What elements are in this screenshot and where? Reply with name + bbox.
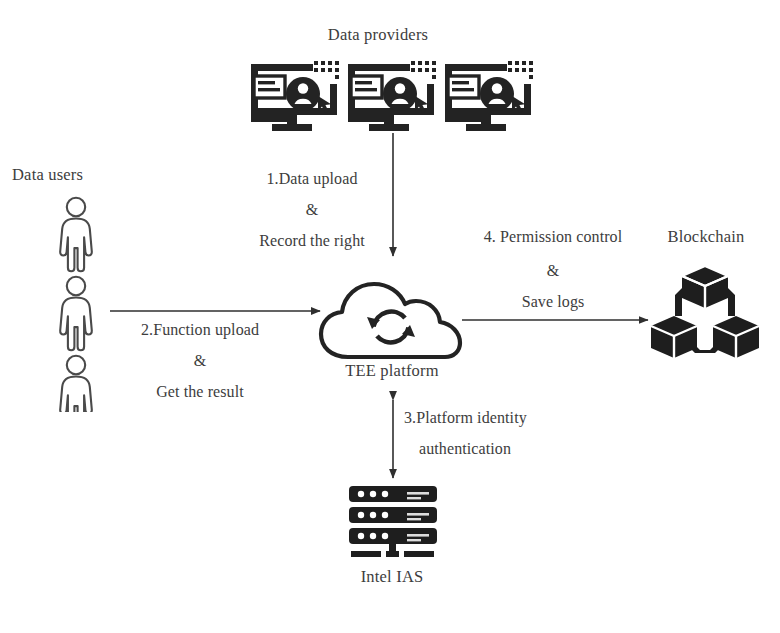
flow-1-conjunction: & xyxy=(306,201,318,219)
flow-2-conjunction: & xyxy=(194,352,206,370)
flow-2-line2: Get the result xyxy=(156,383,244,401)
flow-4-line1: 4. Permission control xyxy=(484,228,623,246)
data-users-label: Data users xyxy=(12,166,83,185)
data-providers-icons xyxy=(248,58,538,136)
flow-4-line2: Save logs xyxy=(522,293,585,311)
flow-2-line1: 2.Function upload xyxy=(141,321,259,339)
data-users-icons xyxy=(52,196,100,412)
blockchain-label: Blockchain xyxy=(667,228,744,247)
intel-ias-label: Intel IAS xyxy=(361,568,424,587)
tee-platform-icon xyxy=(318,277,464,369)
diagram-canvas: Data providers xyxy=(0,0,780,633)
intel-ias-icon xyxy=(345,484,441,558)
blockchain-icon xyxy=(650,258,760,363)
flow-4-conjunction: & xyxy=(547,262,559,280)
flow-3-line2: authentication xyxy=(419,440,511,458)
tee-platform-label: TEE platform xyxy=(345,362,439,381)
flow-3-line1: 3.Platform identity xyxy=(404,409,527,427)
flow-1-line2: Record the right xyxy=(259,232,365,250)
flow-1-line1: 1.Data upload xyxy=(266,170,357,188)
data-providers-label: Data providers xyxy=(328,26,428,45)
